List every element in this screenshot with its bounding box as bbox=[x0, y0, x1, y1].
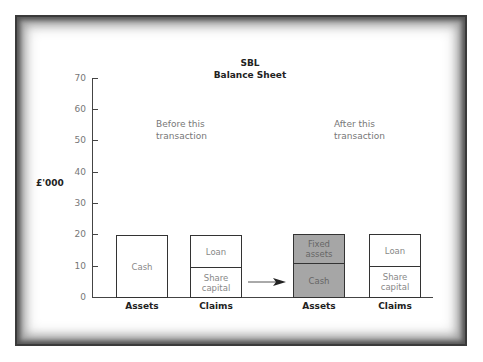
before-note-line1: Before this bbox=[156, 118, 207, 130]
y-tick-20 bbox=[92, 234, 98, 235]
y-tick-60 bbox=[92, 109, 98, 110]
share-capital-line2: capital bbox=[202, 283, 231, 293]
before-note-line2: transaction bbox=[156, 130, 207, 142]
segment-cash: Cash bbox=[117, 236, 167, 297]
segment-share-capital: Share capital bbox=[191, 267, 241, 297]
segment-share-capital: Share capital bbox=[370, 266, 420, 297]
segment-loan: Loan bbox=[370, 235, 420, 266]
chart-subtitle: Balance Sheet bbox=[150, 69, 350, 81]
y-tick-label-30: 30 bbox=[66, 198, 86, 208]
fixed-assets-line1: Fixed bbox=[308, 239, 330, 249]
x-label-before-claims: Claims bbox=[181, 301, 251, 311]
y-tick-label-60: 60 bbox=[66, 104, 86, 114]
bar-before-claims: Loan Share capital bbox=[190, 235, 242, 298]
share-capital-line1: Share bbox=[204, 273, 229, 283]
bar-after-assets: Fixed assets Cash bbox=[293, 234, 345, 298]
y-tick-30 bbox=[92, 203, 98, 204]
y-tick-label-70: 70 bbox=[66, 73, 86, 83]
chart-title: SBL bbox=[150, 57, 350, 69]
bar-after-claims: Loan Share capital bbox=[369, 234, 421, 298]
segment-cash: Cash bbox=[294, 263, 344, 297]
share-capital-line2: capital bbox=[381, 282, 410, 292]
fixed-assets-line2: assets bbox=[305, 249, 332, 259]
y-tick-50 bbox=[92, 140, 98, 141]
after-note-line1: After this bbox=[334, 118, 385, 130]
y-axis bbox=[92, 78, 93, 298]
x-label-after-assets: Assets bbox=[284, 301, 354, 311]
y-tick-10 bbox=[92, 266, 98, 267]
bar-before-assets: Cash bbox=[116, 235, 168, 298]
after-note: After this transaction bbox=[334, 118, 385, 142]
y-tick-70 bbox=[92, 78, 98, 79]
y-tick-label-40: 40 bbox=[66, 167, 86, 177]
segment-loan: Loan bbox=[191, 236, 241, 267]
x-label-after-claims: Claims bbox=[360, 301, 430, 311]
y-tick-label-50: 50 bbox=[66, 135, 86, 145]
segment-fixed-assets: Fixed assets bbox=[294, 235, 344, 263]
share-capital-line1: Share bbox=[383, 272, 408, 282]
y-axis-label: £'000 bbox=[36, 178, 64, 188]
y-tick-label-10: 10 bbox=[66, 261, 86, 271]
x-label-before-assets: Assets bbox=[107, 301, 177, 311]
before-note: Before this transaction bbox=[156, 118, 207, 142]
y-tick-label-20: 20 bbox=[66, 229, 86, 239]
after-note-line2: transaction bbox=[334, 130, 385, 142]
arrow-icon bbox=[248, 278, 286, 286]
y-tick-label-0: 0 bbox=[66, 292, 86, 302]
y-tick-40 bbox=[92, 172, 98, 173]
